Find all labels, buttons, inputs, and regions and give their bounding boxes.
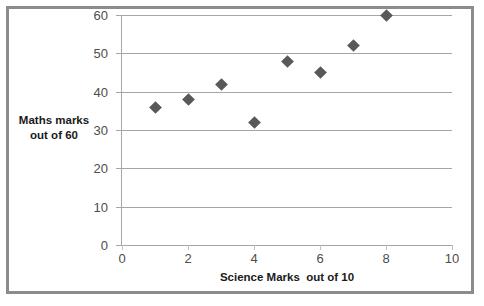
x-tick-label: 10 [432, 252, 472, 266]
gridline [122, 130, 452, 131]
y-axis-title: Maths marks out of 60 [8, 113, 100, 143]
y-tick-label: 20 [68, 162, 108, 175]
y-tick-label: 60 [68, 9, 108, 22]
y-axis-title-line2: out of 60 [8, 128, 100, 143]
plot-area [122, 15, 452, 245]
gridline [122, 15, 452, 16]
x-tick-mark [188, 245, 189, 250]
scatter-chart-figure: 0102030405060 0246810 Maths marks out of… [0, 0, 484, 306]
data-point [149, 101, 162, 114]
x-axis-title: Science Marks out of 10 [122, 271, 452, 283]
x-tick-mark [320, 245, 321, 250]
data-point [347, 39, 360, 52]
data-point [248, 116, 261, 129]
data-point [182, 93, 195, 106]
data-point [314, 66, 327, 79]
x-tick-mark [254, 245, 255, 250]
x-tick-label: 0 [102, 252, 142, 266]
x-tick-label: 6 [300, 252, 340, 266]
y-tick-label: 0 [68, 239, 108, 252]
data-point [215, 78, 228, 91]
y-tick-label: 40 [68, 86, 108, 99]
gridline [122, 168, 452, 169]
gridline [122, 245, 452, 246]
data-point [281, 55, 294, 68]
gridline [122, 207, 452, 208]
gridline [122, 92, 452, 93]
y-axis-title-line1: Maths marks [8, 113, 100, 128]
x-tick-mark [452, 245, 453, 250]
x-tick-label: 8 [366, 252, 406, 266]
x-tick-mark [386, 245, 387, 250]
x-tick-label: 2 [168, 252, 208, 266]
y-tick-label: 10 [68, 201, 108, 214]
y-tick-label: 50 [68, 47, 108, 60]
x-tick-label: 4 [234, 252, 274, 266]
x-tick-mark [122, 245, 123, 250]
